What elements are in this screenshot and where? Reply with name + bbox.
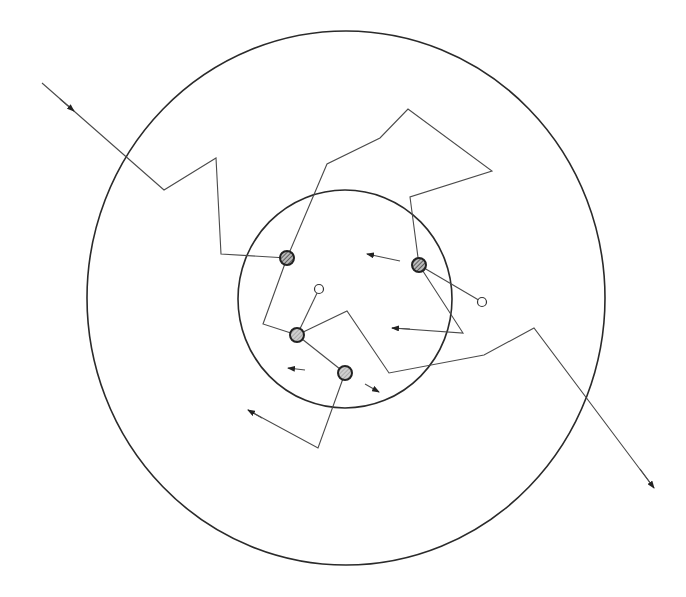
particle-A — [290, 328, 304, 342]
outgoing-track — [297, 311, 654, 488]
arrow-B-left-icon — [288, 368, 305, 370]
open-particle-2 — [478, 298, 487, 307]
open-particle-1 — [315, 285, 324, 294]
particle-C — [412, 258, 426, 272]
particle-scattering-diagram — [0, 0, 686, 597]
outer-circle — [87, 31, 605, 565]
track-particle1-up — [287, 109, 492, 265]
arrow-B-down-left-icon — [248, 410, 262, 418]
direction-arrows — [60, 99, 654, 488]
track-particle1-down — [263, 258, 297, 335]
incoming-track — [42, 83, 287, 258]
arrow-from-C-left-icon — [367, 254, 400, 261]
particle-B — [338, 366, 352, 380]
incoming-arrow-icon — [60, 99, 74, 111]
track-B-down — [248, 373, 345, 448]
arrow-B-right-icon — [365, 384, 379, 392]
track-A-to-B — [297, 335, 345, 373]
particle-1 — [280, 251, 294, 265]
arrow-C-vertex-left-icon — [392, 328, 410, 329]
outgoing-arrow-icon — [640, 469, 654, 488]
open-particle-2-track — [419, 265, 482, 302]
scattering-particles — [280, 251, 426, 380]
boundary-circles — [87, 31, 605, 565]
